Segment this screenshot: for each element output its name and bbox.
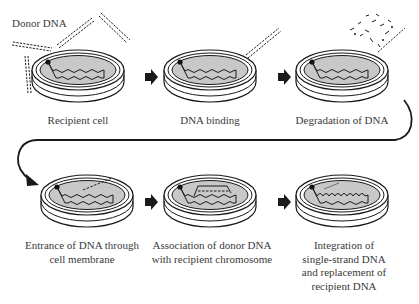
step-2-label-line: DNA binding	[180, 114, 240, 126]
step-4-label-line: Entrance of DNA through	[12, 239, 152, 253]
petri-dish-step-1	[32, 50, 124, 102]
donor-dna-label: Donor DNA	[12, 17, 67, 29]
petri-dish-step-6	[296, 175, 388, 227]
arrow-step5-to-step6	[278, 194, 291, 210]
degraded-dna-fragments	[350, 14, 405, 52]
step-6-label-line: single-strand DNA	[282, 253, 406, 267]
petri-dish-step-2	[164, 50, 256, 102]
step-6-label-line: Integration of	[282, 239, 406, 253]
petri-dish-step-5	[164, 175, 256, 227]
step-4-label: Entrance of DNA through cell membrane	[12, 239, 152, 266]
step-5-label-line: Association of donor DNA	[142, 239, 282, 253]
step-3-label-line: Degradation of DNA	[296, 114, 389, 126]
step-1-label: Recipient cell	[18, 114, 138, 128]
step-6-label-line: recipient DNA	[282, 280, 406, 294]
step-4-label-line: cell membrane	[12, 253, 152, 267]
step-5-label-line: with recipient chromosome	[142, 253, 282, 267]
step-6-label: Integration of single-strand DNA and rep…	[282, 239, 406, 293]
step-2-label: DNA binding	[150, 114, 270, 128]
petri-dish-step-3	[296, 50, 388, 102]
step-3-label: Degradation of DNA	[280, 114, 404, 128]
connector-arrowhead	[26, 174, 39, 186]
transformation-diagram: Donor DNA Recipient cell DNA binding Deg…	[0, 0, 419, 304]
arrow-step1-to-step2	[145, 69, 158, 85]
step-5-label: Association of donor DNA with recipient …	[142, 239, 282, 266]
petri-dish-step-4	[41, 175, 133, 227]
bound-donor-dna	[246, 28, 281, 58]
step-6-label-line: and replacement of	[282, 266, 406, 280]
arrow-step4-to-step5	[145, 194, 158, 210]
connector-step3-to-step4	[18, 100, 412, 180]
arrow-step2-to-step3	[278, 69, 291, 85]
step-1-label-line: Recipient cell	[48, 114, 109, 126]
